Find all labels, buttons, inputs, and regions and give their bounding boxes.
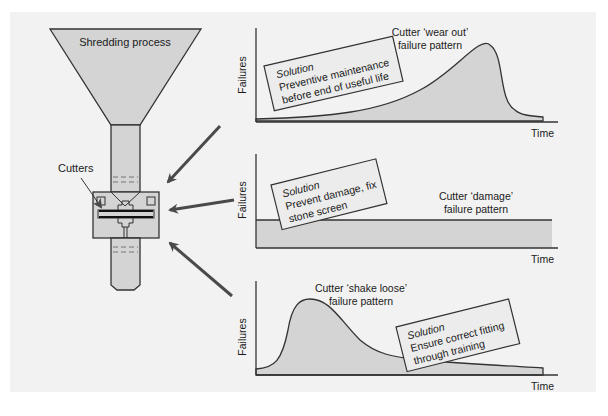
x-axis-label: Time [531, 380, 554, 392]
arrow-wear-out-to-cutters [168, 126, 220, 182]
x-axis-label: Time [531, 253, 554, 265]
y-axis-label: Failures [236, 181, 248, 218]
pattern-label: failure pattern [444, 203, 508, 215]
chart-damage: Failures Time Cutter ‘damage’ failure pa… [236, 154, 558, 265]
arrow-shake-loose-to-cutters [170, 243, 232, 296]
funnel-label: Shredding process [79, 36, 171, 48]
arrow-damage-to-cutters [170, 200, 234, 210]
pattern-label: Cutter ‘damage’ [439, 190, 513, 202]
outlet-chute [111, 238, 140, 290]
pattern-label: failure pattern [329, 295, 393, 307]
pattern-label: Cutter ‘wear out’ [392, 26, 468, 38]
solution-note: Solution Preventive maintenance before e… [264, 36, 403, 111]
y-axis-label: Failures [236, 318, 248, 355]
x-axis-label: Time [531, 127, 554, 139]
solution-note: Solution Ensure correct fitting through … [396, 299, 520, 372]
pattern-label: failure pattern [398, 39, 462, 51]
chart-shake-loose: Failures Time Cutter ‘shake loose’ failu… [236, 281, 558, 392]
failure-patterns-diagram: Shredding process Cutters Failures Time [0, 0, 608, 416]
y-axis-label: Failures [236, 56, 248, 93]
solution-note: Solution Prevent damage, fix stone scree… [271, 159, 387, 230]
cutters-label: Cutters [58, 162, 94, 174]
cutter-housing [93, 192, 159, 238]
chart-wear-out: Failures Time Cutter ‘wear out’ failure … [236, 26, 558, 139]
pattern-label: Cutter ‘shake loose’ [315, 282, 407, 294]
